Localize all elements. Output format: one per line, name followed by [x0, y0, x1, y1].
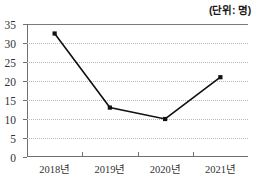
- data-point-2019년: [108, 106, 112, 110]
- x-axis-label-2020년: 2020년: [150, 161, 181, 176]
- data-point-2018년: [53, 31, 57, 35]
- x-axis-label-2018년: 2018년: [39, 161, 70, 176]
- y-tick-0: 0: [23, 157, 27, 158]
- y-tick-label-20: 20: [5, 76, 17, 88]
- x-axis-label-2021년: 2021년: [205, 161, 236, 176]
- y-tick-label-35: 35: [5, 19, 17, 31]
- chart-unit-note: (단위: 명): [209, 2, 251, 17]
- data-point-2021년: [218, 75, 222, 79]
- x-axis-label-2019년: 2019년: [94, 161, 125, 176]
- line-chart-plot-area: 05101520253035 2018년2019년2020년2021년: [27, 24, 248, 157]
- y-tick-label-30: 30: [5, 38, 17, 50]
- data-point-2020년: [163, 117, 167, 121]
- y-tick-label-0: 0: [10, 152, 16, 164]
- series-line-0: [55, 34, 221, 120]
- y-tick-label-10: 10: [5, 114, 17, 126]
- y-tick-label-25: 25: [5, 57, 17, 69]
- data-series-line: [27, 24, 248, 157]
- y-tick-label-5: 5: [10, 133, 16, 145]
- y-tick-label-15: 15: [5, 95, 17, 107]
